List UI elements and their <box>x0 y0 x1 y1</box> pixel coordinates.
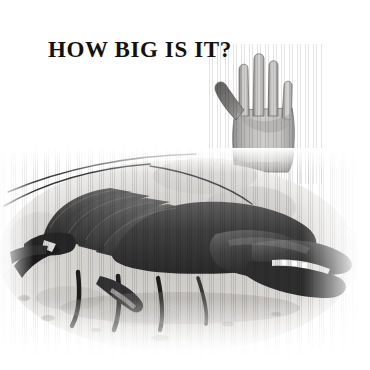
scale-comparison-page: HOW BIG IS IT? <box>0 0 370 370</box>
middle-finger <box>253 54 264 116</box>
page-title: HOW BIG IS IT? <box>48 38 232 62</box>
body-shadow <box>60 292 300 324</box>
ring-finger <box>268 61 278 116</box>
lobster-illustration-svg <box>0 148 370 358</box>
lobster-figure <box>0 148 370 358</box>
